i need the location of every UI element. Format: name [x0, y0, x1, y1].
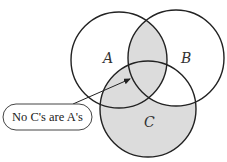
venn-diagram: A B C No C's are A's: [0, 0, 227, 162]
label-a: A: [101, 50, 113, 66]
label-b: B: [180, 50, 191, 66]
label-c: C: [144, 114, 155, 130]
callout-text: No C's are A's: [12, 110, 83, 124]
shaded-regions: [71, 12, 196, 157]
